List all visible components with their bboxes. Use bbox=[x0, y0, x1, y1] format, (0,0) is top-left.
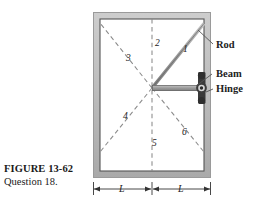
callout-label-beam: Beam bbox=[216, 68, 242, 79]
direction-label-6: 6 bbox=[182, 127, 187, 137]
direction-label-2: 2 bbox=[155, 38, 160, 48]
figure-13-62: 1 2 3 4 5 6 Rod Beam Hinge L L FIGURE 13… bbox=[0, 0, 267, 208]
dim-arrow-right-end bbox=[204, 186, 210, 191]
hinge-knuckle-bottom bbox=[198, 97, 205, 104]
callout-label-rod: Rod bbox=[216, 39, 235, 50]
direction-label-3: 3 bbox=[126, 53, 131, 63]
direction-label-4: 4 bbox=[123, 111, 128, 121]
callout-label-hinge: Hinge bbox=[216, 83, 243, 94]
direction-label-5: 5 bbox=[152, 138, 157, 148]
dimension-label-left: L bbox=[119, 183, 125, 194]
dim-arrow-left-start bbox=[94, 186, 100, 191]
dimension-label-right: L bbox=[178, 183, 184, 194]
hinge-pivot-pin bbox=[200, 86, 203, 89]
figure-caption: FIGURE 13-62 Question 18. bbox=[4, 163, 92, 188]
direction-label-1: 1 bbox=[183, 44, 188, 54]
beam-member bbox=[152, 85, 202, 91]
dim-arrow-right-start bbox=[153, 186, 159, 191]
caption-title: FIGURE 13-62 bbox=[4, 163, 92, 175]
hinge-knuckle-top bbox=[198, 72, 205, 79]
dim-arrow-left-end bbox=[145, 186, 151, 191]
caption-subtitle: Question 18. bbox=[4, 176, 92, 188]
dimension-line bbox=[94, 182, 211, 195]
